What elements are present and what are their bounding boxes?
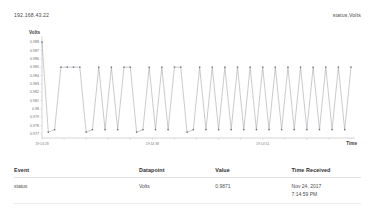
column-header-time-received: Time Received (292, 167, 361, 173)
cell-datapoint: Volts (139, 183, 215, 191)
cell-time-received: Nov 24, 2017 7:14:59 PM (292, 183, 361, 198)
svg-text:Time: Time (346, 141, 357, 146)
chart-canvas[interactable]: Volts 0.9880.9870.9860.9850.9840.9830.98… (14, 26, 361, 156)
x-axis-tick-labels: 19:14:2819:14:3819:14:51 (35, 138, 351, 146)
svg-text:0.978: 0.978 (30, 124, 39, 128)
svg-text:0.979: 0.979 (30, 115, 39, 119)
svg-text:0.982: 0.982 (30, 90, 39, 94)
x-axis-title: Time (346, 141, 357, 146)
svg-text:0.981: 0.981 (30, 99, 39, 103)
svg-text:0.984: 0.984 (30, 74, 39, 78)
telemetry-page: 192.168.43.22 status,Volts Volts 0.9880.… (0, 0, 375, 216)
svg-text:0.986: 0.986 (30, 57, 39, 61)
svg-text:19:14:51: 19:14:51 (256, 142, 269, 146)
y-axis-tick-labels: 0.9880.9870.9860.9850.9840.9830.9820.981… (30, 40, 42, 136)
svg-text:0.98: 0.98 (32, 107, 39, 111)
events-table: Event Datapoint Value Time Received stat… (14, 162, 361, 204)
svg-text:0.977: 0.977 (30, 132, 39, 136)
timeseries-chart[interactable]: Volts 0.9880.9870.9860.9850.9840.9830.98… (14, 26, 361, 156)
data-point-markers[interactable] (41, 41, 351, 132)
axis-lines (42, 36, 355, 138)
svg-text:19:14:38: 19:14:38 (146, 142, 159, 146)
cell-time-clock: 7:14:59 PM (292, 191, 361, 199)
device-address: 192.168.43.22 (14, 12, 49, 18)
svg-text:0.985: 0.985 (30, 65, 39, 69)
svg-text:0.987: 0.987 (30, 49, 39, 53)
svg-text:0.988: 0.988 (30, 40, 39, 44)
table-row[interactable]: status Volts 0.9871 Nov 24, 2017 7:14:59… (14, 178, 361, 204)
y-axis-title: Volts (29, 30, 40, 35)
page-header: 192.168.43.22 status,Volts (0, 8, 375, 22)
column-header-event: Event (14, 167, 139, 173)
cell-time-date: Nov 24, 2017 (292, 183, 361, 191)
table-header-row: Event Datapoint Value Time Received (14, 162, 361, 178)
cell-event: status (14, 183, 139, 191)
cell-value: 0.9871 (215, 183, 291, 191)
stream-label: status,Volts (333, 12, 361, 18)
svg-text:0.983: 0.983 (30, 82, 39, 86)
column-header-value: Value (215, 167, 291, 173)
data-series-line[interactable] (42, 42, 351, 132)
svg-text:Volts: Volts (29, 30, 40, 35)
column-header-datapoint: Datapoint (139, 167, 215, 173)
svg-text:19:14:28: 19:14:28 (35, 142, 48, 146)
